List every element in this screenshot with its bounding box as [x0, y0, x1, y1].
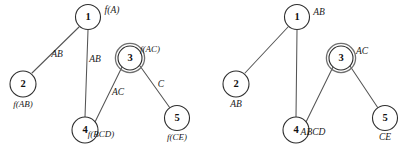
node-set-label: f(AB) [13, 99, 33, 109]
edge-label: C [158, 79, 165, 89]
graph-edge [140, 66, 170, 108]
edge-label: AB [88, 54, 101, 64]
graph-edge [245, 27, 288, 73]
node-set-label: AB [229, 99, 242, 109]
node-set-label: f(CE) [167, 132, 187, 142]
node-id-label: 5 [174, 112, 179, 123]
graph-figure: ABABACC1f(A)2f(AB)3f(AC)4f(BCD)5f(CE) 1A… [0, 0, 410, 151]
node-set-label: f(BCD) [88, 129, 115, 139]
node-set-label: f(A) [105, 5, 120, 16]
graph-edge [85, 30, 88, 117]
node-set-label: f(AC) [140, 44, 160, 54]
node-id-label: 5 [382, 112, 387, 123]
node-set-label: AB [312, 7, 325, 17]
left-graph: ABABACC1f(A)2f(AB)3f(AC)4f(BCD)5f(CE) [10, 5, 190, 144]
edge-label: AC [111, 87, 125, 97]
graph-edge [350, 66, 378, 108]
graph-edge [306, 67, 333, 122]
graph-edge [296, 30, 297, 117]
edge-label: AB [50, 49, 63, 59]
node-id-label: 2 [20, 78, 25, 89]
node-id-label: 3 [127, 52, 132, 63]
node-id-label: 1 [294, 11, 299, 22]
right-graph: 1AB2AB3AC4ABCD5CE [223, 5, 398, 144]
node-id-label: 3 [338, 52, 343, 63]
node-set-label: ABCD [300, 127, 326, 137]
node-set-label: CE [379, 132, 391, 142]
node-set-label: AC [355, 46, 369, 56]
node-id-label: 2 [233, 78, 238, 89]
node-id-label: 1 [85, 11, 90, 22]
graph-canvas: ABABACC1f(A)2f(AB)3f(AC)4f(BCD)5f(CE) 1A… [0, 0, 410, 151]
node-id-label: 4 [293, 124, 299, 135]
